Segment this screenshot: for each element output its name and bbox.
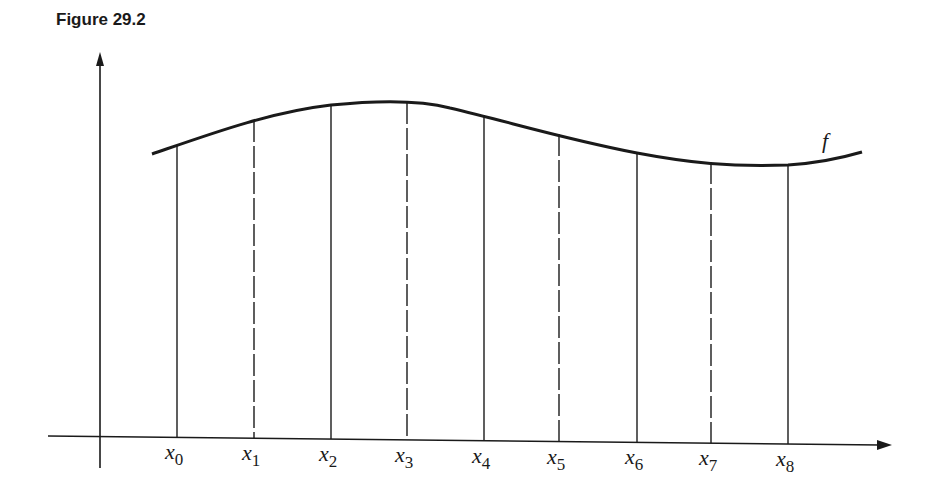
y-axis-arrow-icon xyxy=(96,52,104,66)
ordinate-lines xyxy=(177,102,788,444)
function-label: f xyxy=(822,128,831,153)
label-x5: x5 xyxy=(546,444,565,474)
riemann-partition-diagram: x0x1x2x3x4x5x6x7x8 f xyxy=(0,0,934,499)
label-x8: x8 xyxy=(775,446,794,476)
label-x3: x3 xyxy=(394,442,413,472)
function-curve xyxy=(152,102,862,166)
label-x2: x2 xyxy=(318,441,337,471)
x-axis-arrow-icon xyxy=(877,440,892,450)
partition-labels: x0x1x2x3x4x5x6x7x8 xyxy=(164,439,794,476)
label-x1: x1 xyxy=(241,440,260,470)
label-x0: x0 xyxy=(164,439,183,469)
label-x7: x7 xyxy=(698,445,718,475)
label-x6: x6 xyxy=(624,444,643,474)
label-x4: x4 xyxy=(471,443,491,473)
